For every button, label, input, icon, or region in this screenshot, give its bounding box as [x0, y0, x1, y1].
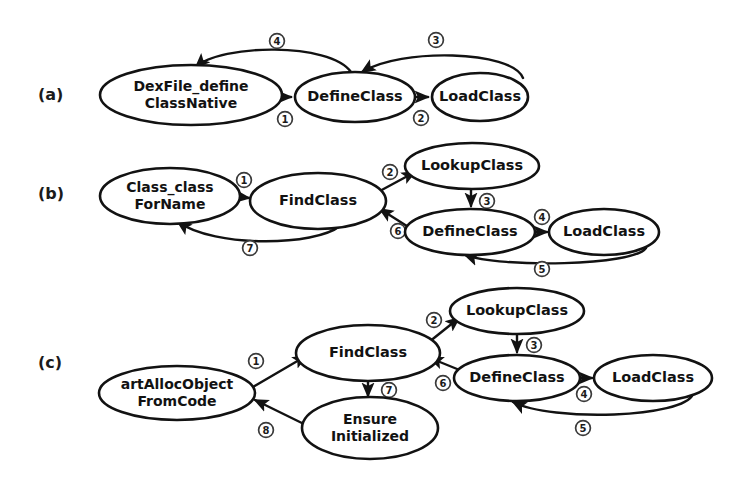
edge-findclass-to-forname-badge: 7	[243, 241, 258, 256]
node-label: FindClass	[279, 192, 357, 208]
node-dexfile-define-class-native[interactable]: DexFile_defineClassNative	[100, 65, 282, 125]
nodes-b: Class_classForNameFindClassLookupClassDe…	[100, 143, 659, 255]
node-find-class[interactable]: FindClass	[250, 173, 386, 229]
node-load-class[interactable]: LoadClass	[549, 209, 659, 255]
node-art-alloc-object-from-code[interactable]: artAllocObjectFromCode	[99, 366, 255, 420]
node-find-class[interactable]: FindClass	[296, 325, 440, 381]
edge-dexfile-to-defineclass-badge: 1	[278, 112, 293, 127]
edge-order-label: 5	[580, 423, 587, 434]
figure-root: (a)1234DexFile_defineClassNativeDefineCl…	[0, 0, 747, 480]
node-label: Class_class	[126, 179, 213, 196]
node-label: ForName	[135, 196, 206, 212]
edge-order-label: 3	[484, 196, 491, 207]
node-label: LookupClass	[466, 302, 568, 318]
edge-loadclass-to-defineclass-badge: 5	[535, 262, 550, 277]
edge-order-label: 5	[539, 264, 546, 275]
edge-order-label: 1	[241, 175, 248, 186]
node-label: ClassNative	[145, 95, 237, 111]
edge-order-label: 7	[386, 385, 393, 396]
node-label: DefineClass	[422, 223, 517, 239]
node-define-class[interactable]: DefineClass	[454, 355, 580, 401]
node-load-class[interactable]: LoadClass	[432, 73, 528, 121]
edge-findclass-to-lookupclass-badge: 2	[427, 313, 442, 328]
node-ensure-initialized[interactable]: EnsureInitialized	[302, 397, 438, 459]
panels-layer: (a)1234DexFile_defineClassNativeDefineCl…	[38, 33, 712, 459]
edge-order-label: 7	[247, 243, 254, 254]
call-graph-diagram: (a)1234DexFile_defineClassNativeDefineCl…	[0, 0, 747, 480]
panel-label-a: (a)	[38, 85, 63, 104]
edge-defineclass-to-findclass-badge: 6	[391, 224, 406, 239]
edge-order-label: 1	[253, 356, 260, 367]
nodes-c: artAllocObjectFromCodeFindClassEnsureIni…	[99, 288, 712, 459]
edge-defineclass-to-dexfile-badge: 4	[270, 34, 285, 49]
node-label: FindClass	[329, 344, 407, 360]
edge-lookupclass-to-defineclass-badge: 3	[527, 338, 542, 353]
edge-order-label: 4	[581, 389, 588, 400]
edge-order-label: 2	[387, 167, 394, 178]
nodes-a: DexFile_defineClassNativeDefineClassLoad…	[100, 65, 528, 125]
node-label: FromCode	[137, 393, 216, 409]
edge-order-label: 3	[433, 35, 440, 46]
panel-label-c: (c)	[38, 353, 62, 372]
edge-ensureinitialized-to-alloc-badge: 8	[259, 423, 274, 438]
edge-findclass-to-ensureinitialized-badge: 7	[382, 383, 397, 398]
node-label: Ensure	[343, 411, 397, 427]
edge-order-label: 4	[274, 36, 281, 47]
edge-findclass-to-lookupclass-badge: 2	[383, 165, 398, 180]
node-lookup-class[interactable]: LookupClass	[405, 143, 539, 189]
node-lookup-class[interactable]: LookupClass	[450, 288, 584, 334]
edge-order-label: 3	[531, 340, 538, 351]
node-label: DefineClass	[307, 88, 402, 104]
node-define-class[interactable]: DefineClass	[405, 209, 535, 255]
edge-order-label: 6	[440, 378, 447, 389]
node-label: DefineClass	[469, 369, 564, 385]
edge-loadclass-to-defineclass-badge: 3	[429, 33, 444, 48]
panel-label-b: (b)	[38, 184, 64, 203]
node-label: Initialized	[331, 428, 409, 444]
node-label: DexFile_define	[133, 78, 248, 95]
edge-order-label: 4	[539, 212, 546, 223]
edge-order-label: 8	[263, 425, 270, 436]
edge-forname-to-findclass	[241, 197, 249, 198]
node-label: LookupClass	[421, 157, 523, 173]
node-label: LoadClass	[563, 223, 645, 239]
node-label: artAllocObject	[121, 376, 234, 392]
edge-defineclass-to-loadclass-badge: 2	[414, 111, 429, 126]
node-label: LoadClass	[439, 88, 521, 104]
edge-defineclass-to-findclass-badge: 6	[436, 376, 451, 391]
node-load-class[interactable]: LoadClass	[594, 355, 712, 401]
node-define-class[interactable]: DefineClass	[295, 72, 415, 122]
edge-order-label: 2	[431, 315, 438, 326]
edge-order-label: 1	[282, 114, 289, 125]
node-class-class-for-name[interactable]: Class_classForName	[100, 168, 240, 224]
edge-lookupclass-to-defineclass-badge: 3	[480, 194, 495, 209]
node-label: LoadClass	[612, 369, 694, 385]
edge-defineclass-to-loadclass-badge: 4	[535, 210, 550, 225]
edge-order-label: 6	[395, 226, 402, 237]
edge-forname-to-findclass-badge: 1	[237, 173, 252, 188]
edge-alloc-to-findclass-badge: 1	[249, 354, 264, 369]
panel-b: (b)1234567Class_classForNameFindClassLoo…	[38, 143, 659, 276]
edge-defineclass-to-loadclass-badge: 4	[577, 387, 592, 402]
panel-a: (a)1234DexFile_defineClassNativeDefineCl…	[38, 33, 528, 127]
edge-loadclass-to-defineclass-badge: 5	[576, 421, 591, 436]
edge-order-label: 2	[418, 113, 425, 124]
panel-c: (c)12345678artAllocObjectFromCodeFindCla…	[38, 288, 712, 459]
